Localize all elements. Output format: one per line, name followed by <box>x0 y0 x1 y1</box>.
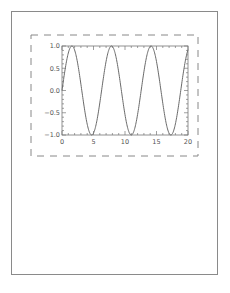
plot-svg: 05101520−1.0−0.50.00.51.0 <box>0 0 230 293</box>
y-tick-label: −1.0 <box>44 131 60 139</box>
axes-frame <box>62 46 188 135</box>
y-tick-label: 0.0 <box>50 87 60 95</box>
x-tick-label: 10 <box>121 138 129 146</box>
x-tick-label: 0 <box>60 138 64 146</box>
y-tick-label: 0.5 <box>50 65 60 73</box>
tick-labels-group: 05101520−1.0−0.50.00.51.0 <box>44 42 192 146</box>
ticks-group <box>62 46 188 135</box>
y-tick-label: −0.5 <box>44 109 60 117</box>
x-tick-label: 5 <box>91 138 95 146</box>
x-tick-label: 20 <box>184 138 192 146</box>
x-tick-label: 15 <box>152 138 160 146</box>
series-line-sin <box>62 46 188 135</box>
y-tick-label: 1.0 <box>50 42 60 50</box>
